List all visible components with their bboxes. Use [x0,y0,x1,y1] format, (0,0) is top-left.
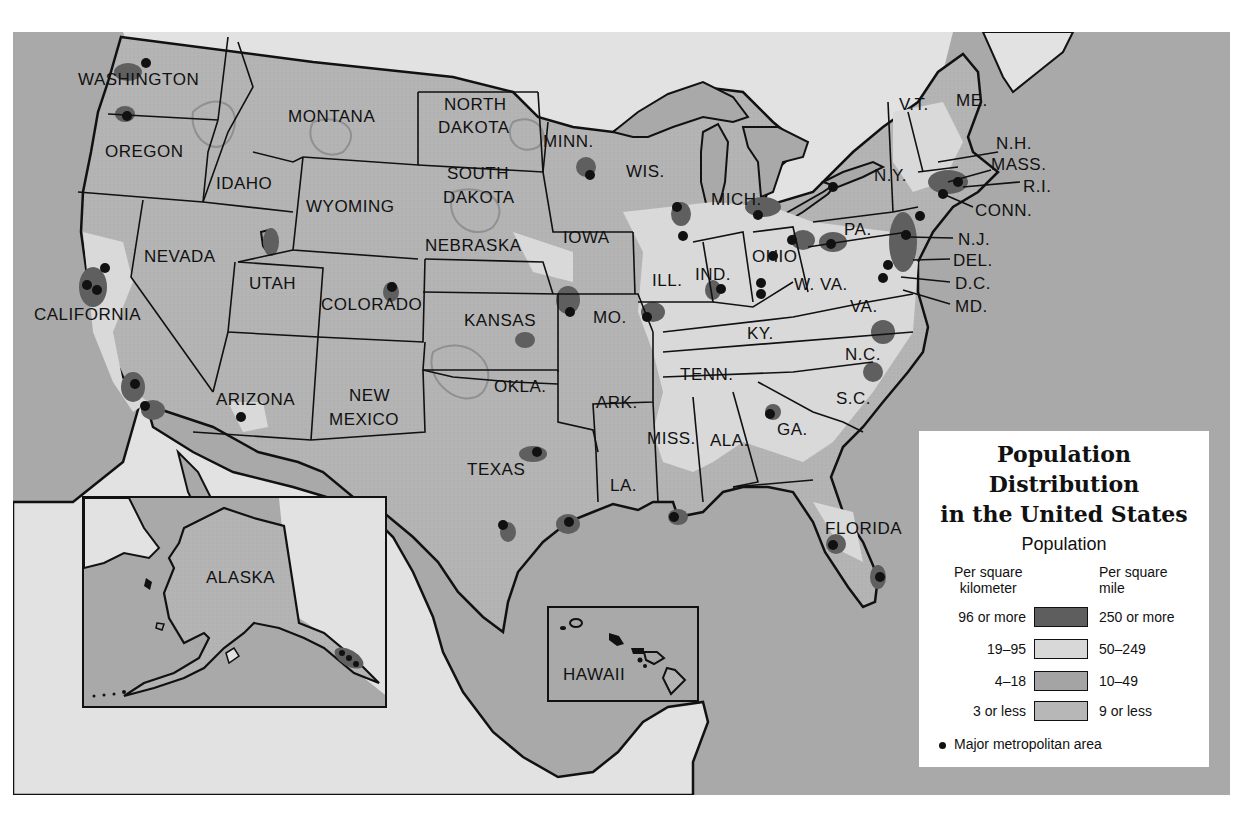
northeast-state-label: DEL. [953,251,993,271]
state-label: ARK. [596,393,638,413]
legend-km-value: 3 or less [973,703,1026,719]
legend-row-medium: 19–95 50–249 [919,639,1209,661]
state-label: ALA. [710,431,749,451]
state-label: WIS. [626,162,665,182]
state-label: UTAH [249,274,296,294]
state-label: MINN. [543,132,594,152]
title-line-1: Population [919,439,1209,469]
legend-swatch-dense [1034,607,1088,627]
state-label: IOWA [563,228,610,248]
state-label: TEXAS [467,460,525,480]
legend-col-km: Per square kilometer [954,564,1022,596]
legend-mi-value: 250 or more [1099,609,1174,625]
alaska-label: ALASKA [206,568,275,588]
state-label: NEW [349,386,390,406]
legend-swatch-low [1034,671,1088,691]
legend-mi-value: 10–49 [1099,673,1138,689]
legend-metro-label: Major metropolitan area [954,736,1102,752]
state-label: VA. [850,297,878,317]
state-label: V.T. [899,95,929,115]
legend-row-dense: 96 or more 250 or more [919,607,1209,629]
state-label: IND. [695,265,731,285]
state-label: OHIO [752,247,797,267]
legend-mi-value: 9 or less [1099,703,1152,719]
legend-km-value: 96 or more [958,609,1026,625]
legend-metro: Major metropolitan area [939,736,1102,752]
state-label: NEBRASKA [425,236,522,256]
map-title: Population Distribution in the United St… [919,439,1209,529]
state-label: WASHINGTON [78,70,199,90]
state-label: NORTH [444,95,507,115]
state-label: N.C. [845,345,881,365]
state-label: DAKOTA [438,118,510,138]
state-label: OREGON [105,142,184,162]
legend: Population Distribution in the United St… [919,431,1209,767]
state-label: KANSAS [464,311,536,331]
state-label: WYOMING [306,197,395,217]
northeast-state-label: MD. [955,297,988,317]
northeast-state-label: N.H. [996,134,1032,154]
legend-swatch-medium [1034,639,1088,659]
northeast-state-label: D.C. [955,274,991,294]
col-mi-line2: mile [1099,580,1167,596]
title-line-2: Distribution [919,469,1209,499]
northeast-state-label: CONN. [975,201,1032,221]
alaska-map [84,498,387,708]
state-label: GA. [777,420,808,440]
northeast-state-label: MASS. [991,155,1046,175]
state-label: N.Y. [874,166,907,186]
legend-subtitle: Population [919,534,1209,555]
hawaii-map [549,608,699,702]
legend-mi-value: 50–249 [1099,641,1146,657]
alaska-inset: ALASKA [82,496,387,708]
col-km-line1: Per square [954,564,1022,580]
legend-km-value: 19–95 [987,641,1026,657]
state-label: DAKOTA [443,188,515,208]
state-label: W. VA. [794,275,848,295]
population-map: WASHINGTONOREGONIDAHOMONTANAWYOMINGNORTH… [13,32,1230,795]
col-km-line2: kilometer [954,580,1022,596]
state-label: MISS. [647,429,696,449]
maritimes-land [983,32,1073,92]
legend-swatch-sparse [1034,701,1088,721]
legend-km-value: 4–18 [995,673,1026,689]
legend-row-sparse: 3 or less 9 or less [919,701,1209,723]
legend-col-mi: Per square mile [1099,564,1167,596]
metro-dot-icon [939,742,946,749]
northeast-state-label: R.I. [1023,177,1051,197]
state-label: ILL. [652,271,682,291]
state-label: MICH. [711,190,762,210]
state-label: MO. [593,308,627,328]
state-label: NEVADA [144,247,216,267]
state-label: ME. [956,91,988,111]
state-label: MONTANA [288,107,375,127]
title-line-3: in the United States [919,499,1209,529]
legend-row-low: 4–18 10–49 [919,671,1209,693]
state-label: ARIZONA [216,390,295,410]
state-label: CALIFORNIA [34,305,141,325]
col-mi-line1: Per square [1099,564,1167,580]
state-label: PA. [844,220,872,240]
state-label: S.C. [836,389,871,409]
state-label: KY. [747,324,774,344]
state-label: IDAHO [216,174,272,194]
state-label: COLORADO [321,295,422,315]
state-label: MEXICO [329,410,399,430]
hawaii-label: HAWAII [563,665,625,685]
state-label: SOUTH [447,164,509,184]
hawaii-inset: HAWAII [547,606,699,702]
state-label: FLORIDA [825,519,902,539]
state-label: LA. [610,476,637,496]
state-label: OKLA. [494,377,547,397]
state-label: TENN. [680,365,734,385]
northeast-state-label: N.J. [958,230,990,250]
